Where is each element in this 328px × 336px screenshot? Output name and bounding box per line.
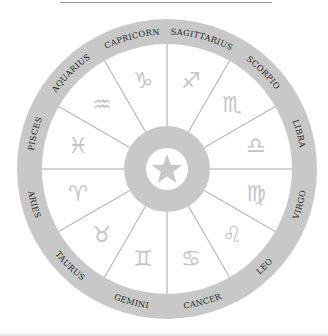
taurus-glyph-icon: ♉ bbox=[92, 222, 112, 247]
sagittarius-glyph-icon: ♐ bbox=[181, 68, 201, 93]
gemini-glyph-icon: ♊ bbox=[133, 246, 153, 271]
aquarius-glyph-icon: ♒ bbox=[92, 92, 112, 117]
scorpio-glyph-icon: ♏ bbox=[222, 92, 242, 117]
aries-glyph-icon: ♈ bbox=[68, 181, 88, 206]
zodiac-wheel: ♐♏♎♍♌♋♊♉♈♓♒♑ SAGITTARIUSSCORPIOLIBRAVIRG… bbox=[0, 0, 328, 336]
virgo-glyph-icon: ♍ bbox=[246, 181, 266, 206]
cancer-glyph-icon: ♋ bbox=[181, 246, 201, 271]
libra-glyph-icon: ♎ bbox=[246, 133, 266, 158]
capricorn-glyph-icon: ♑ bbox=[133, 68, 153, 93]
pisces-glyph-icon: ♓ bbox=[68, 133, 88, 158]
leo-glyph-icon: ♌ bbox=[222, 222, 242, 247]
